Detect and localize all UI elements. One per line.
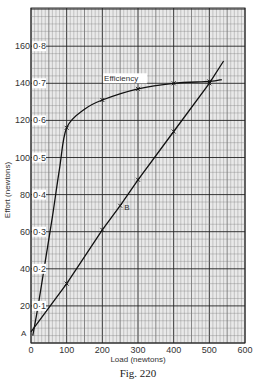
efficiency-tick-label: 0·1	[33, 301, 46, 311]
y-tick-label: 140	[15, 78, 30, 88]
x-axis-label: Load (newtons)	[110, 355, 165, 364]
x-tick-label: 300	[130, 345, 145, 355]
x-tick-label: 400	[166, 345, 181, 355]
efficiency-tick-label: 0·4	[33, 190, 46, 200]
efficiency-tick-label: 0·5	[33, 153, 46, 163]
efficiency-tick-label: 0·2	[33, 264, 46, 274]
y-tick-label: 40	[20, 264, 30, 274]
efficiency-tick-label: 0·7	[33, 78, 46, 88]
annotation-a: A	[21, 329, 27, 338]
efficiency-tick-label: 0·3	[33, 227, 46, 237]
figure-caption: Fig. 220	[120, 367, 157, 379]
y-axis-label: Effort (newtons)	[3, 162, 12, 219]
annotation-b: B	[124, 203, 129, 212]
y-tick-label: 160	[15, 41, 30, 51]
efficiency-tick-label: 0·6	[33, 115, 46, 125]
x-tick-label: 0	[28, 345, 33, 355]
x-tick-label: 600	[237, 345, 252, 355]
x-tick-label: 500	[202, 345, 217, 355]
y-tick-label: 120	[15, 115, 30, 125]
annotation-efficiency: Efficiency	[104, 74, 138, 83]
chart-figure: 0100200300400500600200·1400·2600·3800·41…	[0, 0, 254, 380]
y-tick-label: 20	[20, 301, 30, 311]
y-tick-label: 80	[20, 190, 30, 200]
efficiency-tick-label: 0·8	[33, 41, 46, 51]
chart-grid	[31, 8, 245, 343]
x-tick-label: 200	[95, 345, 110, 355]
y-tick-label: 100	[15, 153, 30, 163]
x-tick-label: 100	[59, 345, 74, 355]
y-tick-label: 60	[20, 227, 30, 237]
